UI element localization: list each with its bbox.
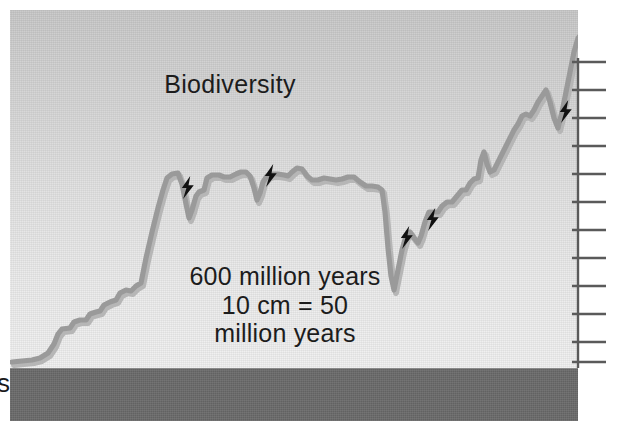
scale-caption: 600 million years 10 cm = 50 million yea… [120,262,450,348]
caption-line-1: 600 million years [120,262,450,291]
caption-line-3: million years [120,319,450,348]
chart-overlay [0,0,617,432]
figure-stage: s Biodiversity 600 mill [0,0,617,432]
caption-line-2: 10 cm = 50 [120,291,450,320]
vertical-axis [572,58,606,368]
page-title: Biodiversity [0,70,460,99]
